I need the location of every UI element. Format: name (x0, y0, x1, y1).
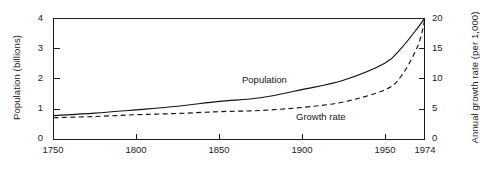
series-line-growth-rate (54, 21, 425, 118)
series-line-population (54, 19, 425, 116)
x-axis-ticks (137, 134, 386, 140)
plot-frame (54, 19, 425, 140)
y-axis-right-ticks (419, 49, 425, 110)
y-axis-left-ticks (54, 49, 60, 110)
figure-caption (2, 162, 472, 169)
